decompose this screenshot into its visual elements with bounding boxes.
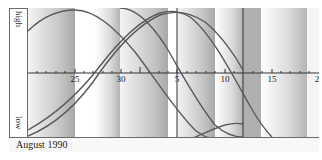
chart-svg: 25 30 5 10 15 2 (28, 8, 319, 138)
x-tick-label: 25 (71, 74, 81, 84)
x-tick-label: 30 (117, 74, 127, 84)
plot-area: 25 30 5 10 15 2 (28, 8, 319, 138)
y-axis-label-column: high low (9, 8, 28, 138)
x-tick-label: 15 (268, 74, 278, 84)
x-tick-label: 2 (315, 74, 319, 84)
footer-date-label: August 1990 (16, 139, 67, 150)
x-tick-label: 10 (221, 74, 231, 84)
y-label-low: low (14, 116, 24, 130)
chart-footer: August 1990 (9, 137, 319, 152)
y-label-high: high (14, 11, 24, 27)
